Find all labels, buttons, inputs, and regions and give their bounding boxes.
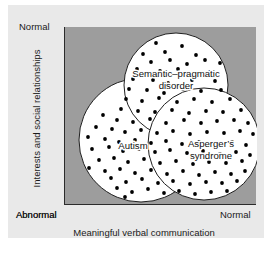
scatter-dot <box>90 147 94 151</box>
x-axis-low-label: Abnormal <box>16 209 57 220</box>
scatter-dot <box>225 189 229 193</box>
scatter-dot <box>153 110 157 114</box>
scatter-dot <box>168 148 172 152</box>
scatter-dot <box>103 169 107 173</box>
scatter-dot <box>194 53 198 57</box>
scatter-dot <box>149 60 153 64</box>
scatter-dot <box>86 135 90 139</box>
scatter-dot <box>157 96 161 100</box>
scatter-dot <box>163 50 167 54</box>
scatter-dot <box>205 130 209 134</box>
scatter-dot <box>139 128 143 132</box>
scatter-dot <box>126 160 130 164</box>
scatter-dot <box>141 52 145 56</box>
scatter-dot <box>140 99 144 103</box>
scatter-dot <box>229 172 233 176</box>
venn-diagram-figure: Normal Abnormal Normal Interests and soc… <box>0 0 272 253</box>
scatter-dot <box>175 100 179 104</box>
scatter-dot <box>238 129 242 133</box>
scatter-dot <box>94 125 98 129</box>
scatter-dot <box>165 172 169 176</box>
scatter-dot <box>103 137 107 141</box>
scatter-dot <box>127 87 131 91</box>
scatter-dot <box>193 192 197 196</box>
scatter-dot <box>87 166 91 170</box>
venn-label-2-line1: Asperger’s <box>188 138 234 149</box>
scatter-dot <box>124 180 128 184</box>
x-axis-high-label: Normal <box>220 209 251 220</box>
scatter-dot <box>133 171 137 175</box>
scatter-dot <box>187 111 191 115</box>
scatter-dot <box>174 159 178 163</box>
plot-area: AutismAutismSemantic–pragmaticSemantic–p… <box>64 27 256 205</box>
scatter-dot <box>97 158 101 162</box>
scatter-dot <box>239 108 243 112</box>
x-axis-title: Meaningful verbal communication <box>16 227 272 238</box>
scatter-dot <box>180 44 184 48</box>
scatter-dot <box>219 88 223 92</box>
scatter-dot <box>123 195 127 199</box>
scatter-dot <box>240 159 244 163</box>
scatter-dot <box>136 109 140 113</box>
scatter-dot <box>244 143 248 147</box>
scatter-dot <box>192 97 196 101</box>
scatter-dot <box>145 88 149 92</box>
scatter-dot <box>153 150 157 154</box>
scatter-dot <box>213 170 217 174</box>
scatter-dot <box>140 177 144 181</box>
scatter-dot <box>199 89 203 93</box>
scatter-dot <box>115 118 119 122</box>
scatter-dot <box>222 131 226 135</box>
scatter-dot <box>218 61 222 65</box>
scatter-dot <box>154 41 158 45</box>
scatter-dot <box>164 139 168 143</box>
scatter-dot <box>131 120 135 124</box>
scatter-dot <box>188 132 192 136</box>
scatter-dot <box>182 118 186 122</box>
scatter-dot <box>156 181 160 185</box>
scatter-dot <box>170 108 174 112</box>
scatter-dot <box>107 145 111 149</box>
scatter-dot <box>228 97 232 101</box>
scatter-dot <box>185 151 189 155</box>
scatter-dot <box>185 62 189 66</box>
scatter-dot <box>188 182 192 186</box>
scatter-dot <box>210 100 214 104</box>
scatter-dot <box>171 179 175 183</box>
scatter-dot <box>235 179 239 183</box>
scatter-dot <box>146 187 150 191</box>
venn-label-0: Autism <box>118 140 147 151</box>
scatter-dot <box>251 132 255 136</box>
scatter-dot <box>215 119 219 123</box>
venn-label-1-line2: disorder <box>159 80 194 91</box>
venn-svg: AutismAutismSemantic–pragmaticSemantic–p… <box>65 27 257 205</box>
scatter-dot <box>204 109 208 113</box>
scatter-dot <box>164 121 168 125</box>
scatter-dot <box>158 161 162 165</box>
scatter-dot <box>232 118 236 122</box>
scatter-dot <box>109 176 113 180</box>
scatter-dot <box>224 161 228 165</box>
scatter-dot <box>199 121 203 125</box>
scatter-dot <box>246 121 250 125</box>
scatter-dot <box>119 107 123 111</box>
scatter-dot <box>181 169 185 173</box>
scatter-dot <box>213 79 217 83</box>
scatter-dot <box>110 127 114 131</box>
venn-label-2-line2: syndrome <box>190 150 232 161</box>
scatter-dot <box>171 129 175 133</box>
scatter-dot <box>220 181 224 185</box>
scatter-dot <box>123 130 127 134</box>
y-axis-title: Interests and social relationships <box>31 39 42 199</box>
scatter-dot <box>221 110 225 114</box>
scatter-dot <box>177 189 181 193</box>
scatter-dot <box>162 91 166 95</box>
scatter-dot <box>142 157 146 161</box>
scatter-dot <box>191 162 195 166</box>
scatter-dot <box>101 113 105 117</box>
scatter-dot <box>124 97 128 101</box>
scatter-dot <box>197 173 201 177</box>
scatter-dot <box>168 58 172 62</box>
scatter-dot <box>149 141 153 145</box>
scatter-dot <box>234 150 238 154</box>
